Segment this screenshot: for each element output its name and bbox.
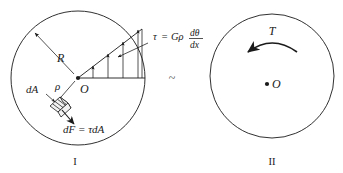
rho-label: ρ [54,80,60,92]
torque-arc-arrow [248,43,297,52]
torque-label: T [269,24,277,38]
panel-caption-one: I [73,156,77,167]
stress-gradient-line [78,29,142,78]
stress-formula-lhs: τ [153,31,158,42]
radius-label: R [56,51,65,65]
force-label: dF = τdA [63,123,105,135]
panel-resultant-torque: O T II [210,14,334,167]
force-arrow [62,110,74,124]
panel-cross-section: R ρ O dA dF = τdA τ = Gρ dθ dx I [11,11,203,167]
stress-formula-coefficient: Gρ [171,31,184,42]
center-label-right: O [272,77,281,91]
center-point-marker-two [265,82,269,86]
stress-formula-denominator: dx [190,40,200,50]
stress-formula-equals: = [161,31,168,42]
area-element-label: dA [26,83,39,95]
center-point-marker [76,76,80,80]
torsion-diagram: R ρ O dA dF = τdA τ = Gρ dθ dx I ~ [0,0,343,173]
stress-formula: τ = Gρ dθ dx [153,28,203,50]
center-label-left: O [80,82,89,96]
stress-formula-leader [118,43,148,57]
stress-formula-numerator: dθ [190,28,200,38]
torsion-figure-canvas: R ρ O dA dF = τdA τ = Gρ dθ dx I ~ [0,0,343,173]
panel-caption-two: II [269,156,276,167]
radius-arrow [35,33,74,74]
equivalence-symbol: ~ [169,71,176,85]
area-element-leader [46,94,55,102]
